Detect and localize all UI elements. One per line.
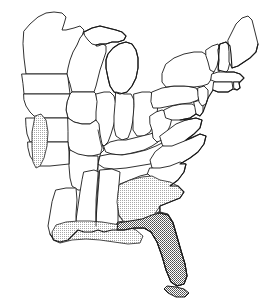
state-iowa <box>66 92 99 124</box>
range-patch-florida-keys <box>164 286 189 297</box>
map-canvas <box>0 0 269 302</box>
state-maine <box>228 16 258 68</box>
state-polygons-layer <box>22 12 258 286</box>
range-florida-peninsula <box>117 213 189 297</box>
range-patch-florida <box>117 213 187 286</box>
state-south-dakota <box>22 74 70 94</box>
state-nebraska <box>24 94 70 118</box>
state-missouri <box>68 118 104 156</box>
state-indiana <box>114 92 134 140</box>
distribution-range-map <box>0 0 269 302</box>
